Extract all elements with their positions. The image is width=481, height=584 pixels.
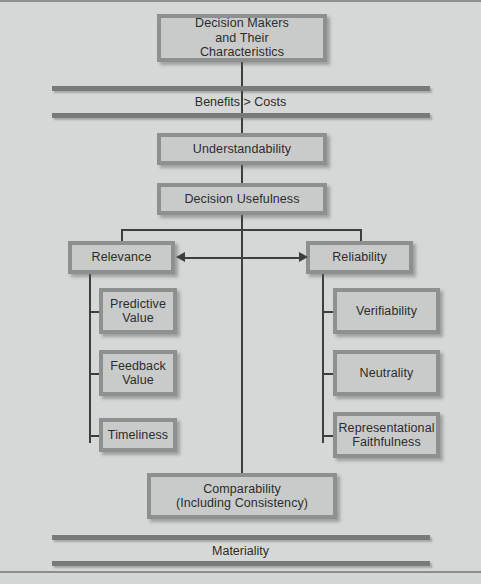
- connector-center-to-comparability: [241, 215, 243, 474]
- connector-relevance-branch-trunk: [89, 274, 91, 443]
- node-neutrality[interactable]: Neutrality: [333, 350, 440, 396]
- node-decision-usefulness[interactable]: Decision Usefulness: [157, 183, 327, 215]
- node-feedback-value[interactable]: Feedback Value: [99, 350, 177, 396]
- node-comparability-line2: (Including Consistency): [170, 496, 314, 510]
- node-reliability[interactable]: Reliability: [306, 241, 413, 274]
- node-neutrality-label: Neutrality: [354, 366, 420, 380]
- connector-reliability-branch-trunk: [322, 274, 324, 443]
- node-verifiability[interactable]: Verifiability: [333, 288, 440, 334]
- node-predictive-value[interactable]: Predictive Value: [99, 288, 177, 334]
- node-comparability-line1: Comparability: [170, 482, 314, 496]
- arrow-head-left-icon: [176, 252, 185, 262]
- node-predictive-value-line1: Predictive: [104, 297, 172, 311]
- node-predictive-value-line2: Value: [104, 311, 172, 325]
- node-relevance[interactable]: Relevance: [68, 241, 175, 274]
- node-feedback-value-text: Feedback Value: [98, 359, 178, 388]
- benefits-costs-label: Benefits > Costs: [0, 95, 481, 109]
- node-timeliness[interactable]: Timeliness: [99, 418, 177, 452]
- node-feedback-value-line2: Value: [104, 373, 172, 387]
- node-decision-makers[interactable]: Decision Makers and Their Characteristic…: [157, 14, 327, 62]
- node-decision-makers-line2: and Their Characteristics: [167, 31, 317, 60]
- node-predictive-value-text: Predictive Value: [98, 297, 178, 326]
- bottom-edge-rule: [0, 571, 481, 573]
- node-comparability-text: Comparability (Including Consistency): [164, 482, 320, 511]
- benefits-costs-rule-bottom: [52, 113, 430, 118]
- node-representational-faithfulness-line1: Representational: [332, 421, 440, 435]
- node-comparability[interactable]: Comparability (Including Consistency): [147, 473, 337, 519]
- arrow-head-right-icon: [299, 252, 308, 262]
- node-relevance-label: Relevance: [86, 250, 158, 264]
- benefits-costs-rule-top: [52, 86, 430, 91]
- materiality-rule-bottom: [52, 561, 430, 566]
- node-feedback-value-line1: Feedback: [104, 359, 172, 373]
- node-verifiability-label: Verifiability: [350, 304, 423, 318]
- node-decision-makers-text: Decision Makers and Their Characteristic…: [161, 16, 323, 59]
- node-representational-faithfulness-text: Representational Faithfulness: [326, 421, 446, 450]
- connector-understandability-to-usefulness: [241, 165, 243, 183]
- node-timeliness-label: Timeliness: [102, 428, 174, 442]
- hierarchy-diagram: Decision Makers and Their Characteristic…: [0, 0, 481, 584]
- materiality-label: Materiality: [0, 544, 481, 558]
- node-decision-makers-line1: Decision Makers: [167, 16, 317, 30]
- node-representational-faithfulness[interactable]: Representational Faithfulness: [333, 412, 440, 458]
- node-representational-faithfulness-line2: Faithfulness: [332, 435, 440, 449]
- node-reliability-label: Reliability: [326, 250, 393, 264]
- node-understandability[interactable]: Understandability: [157, 133, 327, 165]
- node-understandability-label: Understandability: [187, 142, 297, 156]
- materiality-rule-top: [52, 535, 430, 540]
- node-decision-usefulness-label: Decision Usefulness: [178, 192, 305, 206]
